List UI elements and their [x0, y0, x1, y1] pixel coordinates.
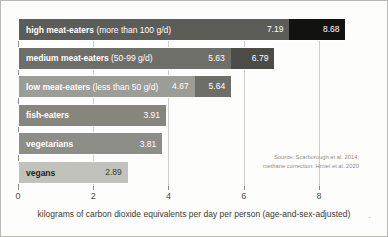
bar[interactable]: 2.89vegans [18, 161, 127, 184]
bar-value-extension: 8.68 [323, 25, 346, 34]
tick-mark-8 [319, 186, 320, 190]
bar-label: low meat-eaters (less than 50 g/d) [26, 82, 158, 91]
bar-label: high meat-eaters (more than 100 g/d) [26, 25, 171, 34]
bar-value-base: 7.19 [267, 25, 290, 34]
bar-value-extension: 6.79 [252, 54, 275, 63]
bar[interactable]: 3.91fish-eaters [18, 104, 165, 127]
bar[interactable]: 7.198.68high meat-eaters (more than 100 … [18, 18, 344, 41]
bar-label-qualifier: (less than 50 g/d) [90, 81, 158, 91]
bar-segment-extension: 6.79 [231, 48, 275, 69]
bar[interactable]: 3.81vegetarians [18, 132, 161, 155]
bar-value-base: 2.89 [105, 168, 128, 177]
bar-value-base: 5.63 [208, 54, 231, 63]
bar-label: vegans [26, 168, 55, 177]
bar-label: fish-eaters [26, 111, 69, 120]
tick-mark-0 [18, 186, 19, 190]
tick-mark-6 [244, 186, 245, 190]
bar-label: medium meat-eaters (50-99 g/d) [26, 54, 153, 63]
axis-caption: kilograms of carbon dioxide equivalents … [1, 209, 387, 219]
bar-label-name: medium meat-eaters [26, 53, 109, 63]
chart-figure: 7.198.68high meat-eaters (more than 100 … [0, 0, 388, 237]
x-tick-label: 6 [241, 191, 246, 201]
x-tick-label: 0 [15, 191, 20, 201]
bar-label: vegetarians [26, 140, 73, 149]
bar-value-base: 3.81 [140, 140, 163, 149]
decorative-mark: · [368, 213, 371, 222]
bar-label-name: fish-eaters [26, 110, 69, 120]
bar-value-extension: 5.64 [209, 82, 232, 91]
x-axis-ticks: 02468 [18, 191, 349, 205]
bar-label-qualifier: (50-99 g/d) [109, 53, 153, 63]
tick-mark-4 [168, 186, 169, 190]
source-line: methane correction: Hmiel et al. 2020 [263, 162, 359, 171]
bar[interactable]: 4.675.64low meat-eaters (less than 50 g/… [18, 75, 230, 98]
bar-row: 4.675.64low meat-eaters (less than 50 g/… [18, 75, 349, 98]
bar-row: 3.91fish-eaters [18, 104, 349, 127]
bar-label-name: high meat-eaters [26, 24, 94, 34]
bar-label-name: vegetarians [26, 139, 73, 149]
bar-label-name: vegans [26, 167, 55, 177]
bar-value-base: 4.67 [172, 82, 195, 91]
tick-mark-2 [93, 186, 94, 190]
x-tick-label: 4 [166, 191, 171, 201]
bar-label-qualifier: (more than 100 g/d) [94, 24, 171, 34]
bar-row: 7.198.68high meat-eaters (more than 100 … [18, 18, 349, 41]
bar-label-name: low meat-eaters [26, 81, 90, 91]
bar[interactable]: 5.636.79medium meat-eaters (50-99 g/d) [18, 47, 273, 70]
x-tick-label: 8 [316, 191, 321, 201]
bar-segment-extension: 5.64 [195, 76, 231, 97]
bar-value-base: 3.91 [144, 111, 167, 120]
x-tick-label: 2 [91, 191, 96, 201]
source-note: Source: Scarborough et al. 2014;methane … [263, 153, 359, 171]
bar-segment-extension: 8.68 [289, 19, 345, 40]
bar-row: 3.81vegetarians [18, 132, 349, 155]
bar-row: 5.636.79medium meat-eaters (50-99 g/d) [18, 47, 349, 70]
source-line: Source: Scarborough et al. 2014; [263, 153, 359, 162]
